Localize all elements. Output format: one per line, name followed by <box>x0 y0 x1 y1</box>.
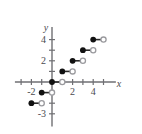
open-endpoint-dot <box>91 48 96 53</box>
x-tick-label: 2 <box>70 86 75 97</box>
closed-endpoint-dot <box>49 79 55 85</box>
x-tick-label: 4 <box>91 86 96 97</box>
open-endpoint-dot <box>49 90 54 95</box>
open-endpoint-dot <box>70 69 75 74</box>
coordinate-plot: -22442-3xy <box>0 0 142 134</box>
x-tick-label: -2 <box>27 86 35 97</box>
y-tick-label: -3 <box>38 108 46 119</box>
open-endpoint-dot <box>80 58 85 63</box>
open-endpoint-dot <box>60 79 65 84</box>
open-endpoint-dot <box>101 37 106 42</box>
y-tick-label: 4 <box>41 34 46 45</box>
axes-group <box>15 27 116 127</box>
closed-endpoint-dot <box>29 100 35 106</box>
y-tick-label: 2 <box>41 55 46 66</box>
y-axis-label: y <box>43 22 49 33</box>
closed-endpoint-dot <box>70 58 76 64</box>
closed-endpoint-dot <box>90 37 96 43</box>
closed-endpoint-dot <box>59 69 65 75</box>
closed-endpoint-dot <box>39 90 45 96</box>
x-axis-label: x <box>116 78 122 89</box>
closed-endpoint-dot <box>80 47 86 53</box>
open-endpoint-dot <box>39 101 44 106</box>
graph-figure: -22442-3xy <box>0 0 142 134</box>
